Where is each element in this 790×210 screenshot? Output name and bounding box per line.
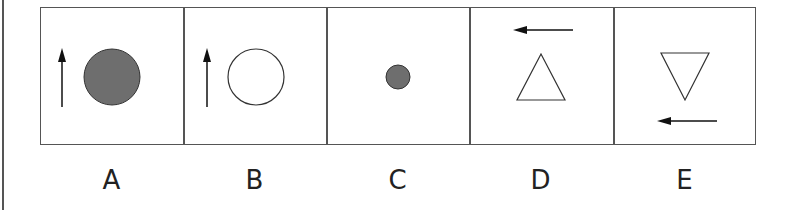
arrow-up-icon xyxy=(58,48,66,107)
option-b-figure xyxy=(184,8,326,144)
option-d-figure xyxy=(470,8,613,144)
triangle-up xyxy=(517,54,565,100)
options-strip xyxy=(40,7,756,145)
arrow-up-icon xyxy=(203,48,211,107)
option-a-label: A xyxy=(40,165,183,195)
option-d-cell[interactable] xyxy=(470,8,613,144)
option-e-cell[interactable] xyxy=(614,8,757,144)
option-c-cell[interactable] xyxy=(327,8,469,144)
option-a-cell[interactable] xyxy=(41,8,183,144)
option-b-cell[interactable] xyxy=(184,8,326,144)
filled-circle-small xyxy=(386,65,410,89)
option-e-figure xyxy=(614,8,757,144)
option-c-figure xyxy=(327,8,469,144)
option-d-label: D xyxy=(469,165,612,195)
option-b-label: B xyxy=(183,165,326,195)
option-a-figure xyxy=(41,8,183,144)
left-border-line xyxy=(2,0,4,210)
arrow-left-icon xyxy=(657,117,717,125)
filled-circle-large xyxy=(84,49,140,105)
arrow-left-icon xyxy=(513,26,573,34)
option-c-label: C xyxy=(326,165,469,195)
hollow-circle-large xyxy=(228,49,284,105)
option-e-label: E xyxy=(613,165,756,195)
triangle-down xyxy=(661,53,709,100)
